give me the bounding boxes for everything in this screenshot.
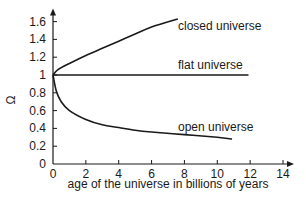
axes: 0246810121400.20.40.60.811.21.41.6 — [29, 9, 294, 181]
y-tick-label: 1.2 — [29, 50, 46, 64]
y-tick-label: 0.4 — [29, 121, 46, 135]
series-line-closed-universe — [53, 19, 178, 75]
y-tick-label: 1.4 — [29, 32, 46, 46]
series-label-open-universe: open universe — [178, 120, 254, 134]
x-tick-label: 0 — [50, 167, 57, 181]
y-axis-arrow-icon — [50, 9, 56, 16]
labels-group: closed universeflat universeopen univers… — [178, 19, 262, 134]
y-tick-label: 1 — [39, 68, 46, 82]
y-tick-label: 0.2 — [29, 139, 46, 153]
y-tick-label: 0.8 — [29, 86, 46, 100]
y-tick-label: 0.6 — [29, 104, 46, 118]
y-tick-label: 0 — [39, 157, 46, 171]
y-axis-label: Ω — [4, 95, 18, 104]
y-tick-label: 1.6 — [29, 15, 46, 29]
x-tick-label: 14 — [276, 167, 290, 181]
series-label-flat-universe: flat universe — [178, 58, 243, 72]
series-label-closed-universe: closed universe — [178, 19, 262, 33]
omega-age-chart: 0246810121400.20.40.60.811.21.41.6 close… — [0, 0, 306, 198]
x-axis-label: age of the universe in billions of years — [68, 177, 269, 191]
